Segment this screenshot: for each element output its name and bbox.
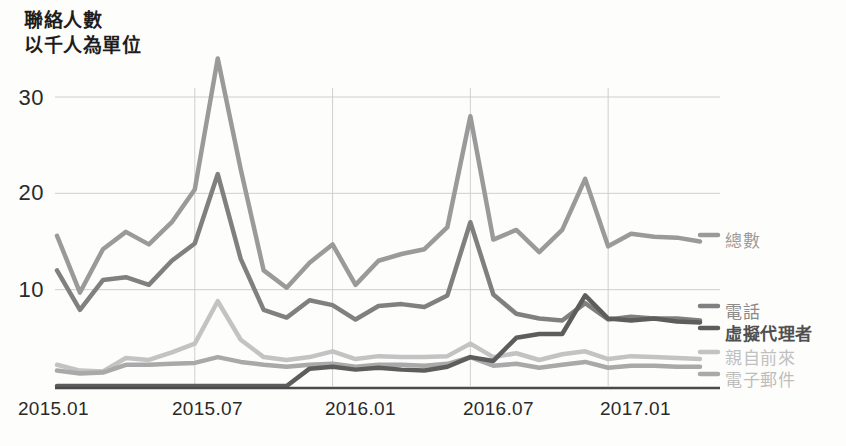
x-tick-2015-07: 2015.07 [172, 398, 243, 420]
x-tick-2016-07: 2016.07 [463, 398, 534, 420]
legend-label-virtual-agent: 虛擬代理者 [725, 320, 813, 345]
legend-leader-layer [700, 235, 718, 374]
x-tick-2016-01: 2016.01 [325, 398, 396, 420]
chart-canvas: 聯絡人數 以千人為單位 30 20 10 2015.01 2015.07 201… [0, 0, 846, 446]
x-tick-2015-01: 2015.01 [18, 398, 89, 420]
y-tick-10: 10 [2, 277, 44, 303]
legend-label-total: 總數 [725, 227, 760, 252]
legend-label-email: 電子郵件 [725, 366, 795, 391]
line-chart-svg [0, 0, 846, 446]
y-tick-20: 20 [2, 180, 44, 206]
x-tick-2017-01: 2017.01 [600, 398, 671, 420]
y-tick-30: 30 [2, 85, 44, 111]
series-layer [57, 58, 700, 386]
